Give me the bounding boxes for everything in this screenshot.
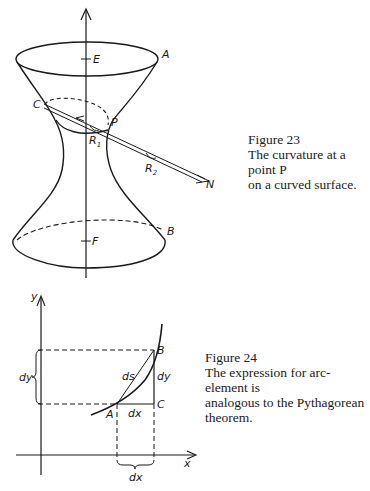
label-b2: B	[157, 344, 165, 357]
figure-24-caption-line1: The expression for arc-element is	[205, 365, 370, 395]
dx-brace-bottom	[117, 460, 154, 469]
label-dx-inner: dx	[128, 407, 142, 420]
label-a: A	[161, 48, 170, 61]
label-b: B	[167, 225, 175, 238]
figure-23-caption-line1: The curvature at a point P	[248, 147, 370, 177]
label-dx-bottom: dx	[129, 471, 143, 484]
label-y-axis: y	[30, 290, 38, 303]
normal-line-lower	[44, 108, 202, 182]
label-r2: R2	[145, 162, 158, 177]
label-dy-left: dy	[19, 371, 33, 384]
label-x-axis: x	[183, 457, 191, 470]
figure-24-caption: Figure 24 The expression for arc-element…	[205, 350, 370, 425]
figure-24-caption-line2: analogous to the Pythagorean	[205, 395, 370, 410]
label-p: P	[111, 116, 118, 129]
label-f: F	[92, 235, 99, 248]
dy-brace-left	[32, 350, 41, 404]
label-dy-right: dy	[157, 370, 171, 383]
waist-ellipse-back	[45, 98, 108, 125]
bottom-ellipse-back	[17, 220, 163, 240]
figure-23-hyperboloid	[13, 9, 209, 278]
label-c2: C	[157, 398, 165, 411]
figure-23-caption-line2: on a curved surface.	[248, 177, 370, 192]
label-n: N	[206, 178, 214, 191]
left-profile	[13, 62, 64, 240]
label-c: C	[33, 98, 41, 111]
figure-23-labels: E A C P R1 R2 N B F	[33, 48, 214, 248]
figure-24-caption-title: Figure 24	[205, 350, 370, 365]
label-ds: ds	[122, 370, 135, 383]
label-r1: R1	[89, 134, 101, 149]
normal-line-upper	[44, 104, 205, 179]
label-e: E	[93, 53, 100, 66]
figure-24-caption-line3: theorem.	[205, 410, 370, 425]
figure-24-arc-element	[16, 296, 196, 475]
bottom-ellipse-front	[13, 240, 165, 268]
label-a2: A	[105, 408, 114, 421]
figure-23-caption-title: Figure 23	[248, 132, 370, 147]
figure-23-caption: Figure 23 The curvature at a point P on …	[248, 132, 370, 192]
